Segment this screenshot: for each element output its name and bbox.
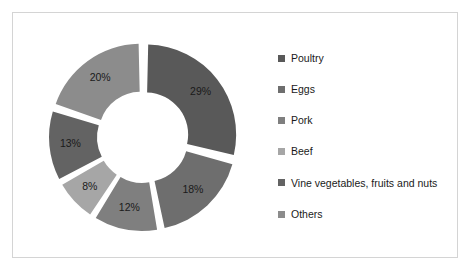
chart-legend: PoultryEggsPorkBeefVine vegetables, frui…	[278, 25, 458, 247]
legend-item-label: Others	[291, 209, 323, 220]
donut-slice-value-label: 18%	[182, 183, 203, 195]
donut-slice-value-label: 13%	[60, 137, 81, 149]
legend-item[interactable]: Poultry	[278, 50, 324, 66]
legend-swatch-icon	[278, 55, 285, 62]
donut-slice-value-label: 12%	[119, 201, 140, 213]
donut-slice-value-label: 8%	[82, 180, 97, 192]
legend-item[interactable]: Vine vegetables, fruits and nuts	[278, 175, 437, 191]
legend-item[interactable]: Others	[278, 206, 323, 222]
legend-swatch-icon	[278, 117, 285, 124]
donut-chart-plot-area: 29%18%12%8%13%20%	[13, 13, 278, 259]
legend-item-label: Pork	[291, 115, 313, 126]
legend-item-label: Vine vegetables, fruits and nuts	[291, 178, 437, 189]
legend-swatch-icon	[278, 86, 285, 93]
legend-item-label: Beef	[291, 146, 313, 157]
legend-item-label: Poultry	[291, 53, 324, 64]
donut-slice-value-label: 20%	[90, 71, 111, 83]
donut-chart-svg: 29%18%12%8%13%20%	[13, 13, 278, 259]
legend-swatch-icon	[278, 211, 285, 218]
legend-swatch-icon	[278, 148, 285, 155]
donut-slice[interactable]	[147, 45, 236, 155]
legend-item[interactable]: Eggs	[278, 81, 315, 97]
legend-item[interactable]: Beef	[278, 144, 313, 160]
legend-item-label: Eggs	[291, 84, 315, 95]
legend-swatch-icon	[278, 179, 285, 186]
chart-frame: 29%18%12%8%13%20% PoultryEggsPorkBeefVin…	[12, 12, 458, 258]
legend-item[interactable]: Pork	[278, 112, 313, 128]
donut-slice-value-label: 29%	[190, 85, 211, 97]
